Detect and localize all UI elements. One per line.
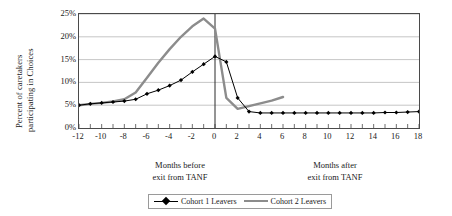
legend-label-cohort-2: Cohort 2 Leavers [271, 197, 327, 206]
y-axis-title-line1: Percent of caretakers [14, 55, 24, 128]
x-axis-tick-labels: -12-10-8-6-4-2024681012141618 [0, 131, 452, 145]
x-axis-caption-before-line1: Months before [120, 159, 240, 171]
y-tick-label: 10% [42, 77, 76, 86]
legend-swatch-cohort-2-icon [244, 197, 268, 207]
legend-item-cohort-1: Cohort 1 Leavers [154, 197, 237, 207]
x-axis-caption-after: Months after exit from TANF [275, 159, 395, 184]
x-axis-caption-after-line2: exit from TANF [275, 171, 395, 183]
y-axis-title: Percent of caretakers participating in C… [0, 0, 42, 140]
x-axis-caption-before: Months before exit from TANF [120, 159, 240, 184]
legend-item-cohort-2: Cohort 2 Leavers [244, 197, 327, 207]
x-axis-caption-after-line1: Months after [275, 159, 395, 171]
y-tick-label: 25% [42, 9, 76, 18]
legend-label-cohort-1: Cohort 1 Leavers [181, 197, 237, 206]
y-tick-label: 5% [42, 100, 76, 109]
plot-area [78, 13, 420, 129]
chart-figure: Percent of caretakers participating in C… [0, 0, 452, 216]
y-axis-tick-labels: 0%5%10%15%20%25% [42, 0, 76, 216]
y-axis-title-line2: participating in Choices [25, 48, 35, 132]
chart-legend: Cohort 1 Leavers Cohort 2 Leavers [148, 194, 332, 209]
y-tick-label: 20% [42, 32, 76, 41]
y-tick-label: 15% [42, 55, 76, 64]
plot-svg [79, 14, 419, 128]
legend-swatch-cohort-1-icon [154, 197, 178, 207]
x-axis-caption-before-line2: exit from TANF [120, 171, 240, 183]
x-tick-label: 18 [403, 131, 433, 141]
